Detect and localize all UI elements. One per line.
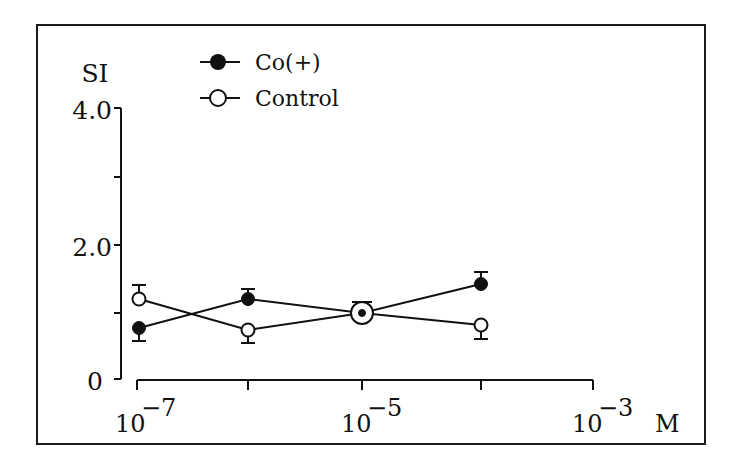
series-control-line (139, 299, 481, 330)
legend-item-co: Co(+) (200, 50, 321, 75)
svg-text:−7: −7 (141, 394, 176, 422)
y-axis-title: SI (81, 59, 108, 88)
chart-canvas: 4.0 2.0 0 SI 10 −7 10 −5 10 −3 M Co(+) C… (0, 0, 738, 468)
y-tick-label-2: 2.0 (72, 233, 112, 262)
x-axis-unit: M (655, 410, 680, 438)
open-circle-icon (210, 90, 226, 106)
svg-text:Control: Control (255, 86, 339, 111)
x-tick-label-1e-7: 10 −7 (115, 394, 176, 438)
filled-circle-icon (210, 54, 226, 70)
svg-text:−3: −3 (598, 394, 633, 422)
x-tick-label-1e-5: 10 −5 (341, 394, 402, 438)
y-axis (114, 108, 121, 379)
x-tick-label-1e-3: 10 −3 (572, 394, 633, 438)
svg-text:Co(+): Co(+) (255, 50, 321, 75)
series-control-markers (133, 293, 488, 337)
legend-item-control: Control (200, 86, 339, 111)
x-axis (137, 380, 593, 390)
legend: Co(+) Control (200, 50, 339, 111)
y-tick-label-0: 0 (87, 367, 103, 396)
svg-text:−5: −5 (367, 394, 402, 422)
y-tick-label-4: 4.0 (72, 96, 112, 125)
